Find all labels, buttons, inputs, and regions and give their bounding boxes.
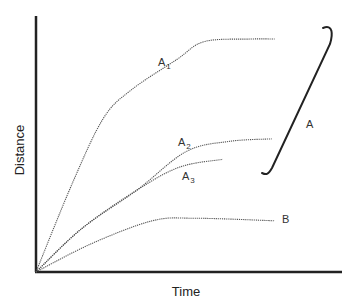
label-a1: A1 <box>158 56 171 71</box>
label-a2: A2 <box>178 136 191 151</box>
chart: Time Distance A1 A2 A3 B A <box>0 0 356 308</box>
label-group-a: A <box>306 118 314 130</box>
x-axis-label: Time <box>172 284 200 299</box>
curve-a1 <box>36 39 275 272</box>
y-axis-label: Distance <box>12 125 27 176</box>
curve-a2 <box>36 139 272 272</box>
group-bracket <box>262 27 332 174</box>
label-a3: A3 <box>182 170 195 185</box>
curve-b <box>36 218 275 272</box>
label-b: B <box>282 213 289 225</box>
